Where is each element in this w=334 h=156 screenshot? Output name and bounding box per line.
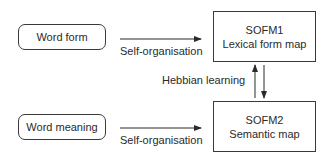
word-meaning-node: Word meaning [18,114,106,140]
sofm1-node: SOFM1 Lexical form map [213,11,316,62]
self-organisation-label-top: Self-organisation [120,45,203,58]
word-form-label: Word form [36,30,87,44]
sofm1-title: SOFM1 [246,23,284,37]
sofm1-subtitle: Lexical form map [223,37,307,51]
word-form-node: Word form [18,24,106,50]
self-organisation-label-bottom: Self-organisation [120,134,203,147]
hebbian-learning-label: Hebbian learning [162,74,245,87]
sofm2-subtitle: Semantic map [229,127,299,141]
sofm2-title: SOFM2 [246,113,284,127]
word-meaning-label: Word meaning [26,120,97,134]
sofm2-node: SOFM2 Semantic map [213,101,316,152]
